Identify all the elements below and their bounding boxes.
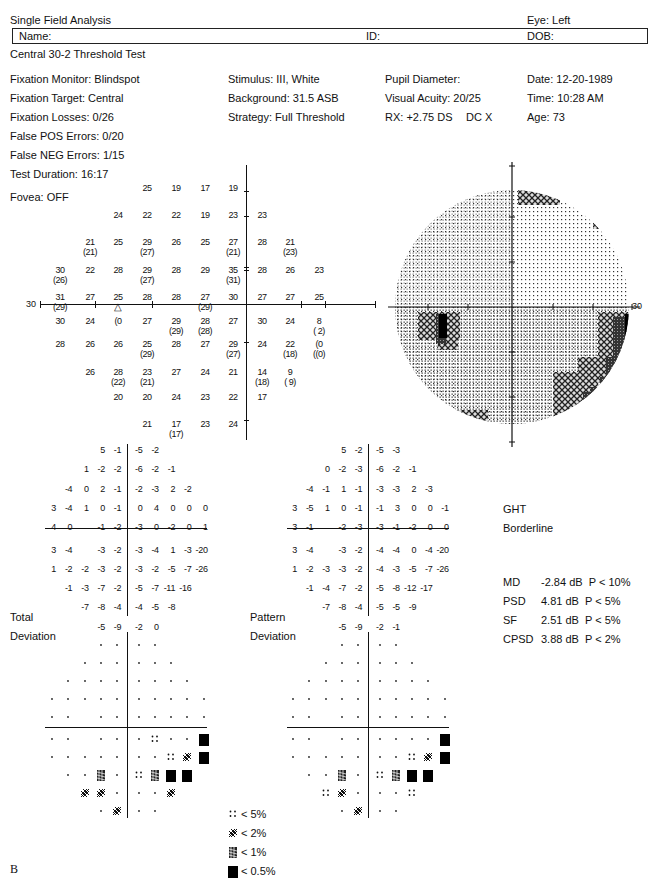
threshold-value: 24 <box>76 316 104 326</box>
threshold-value: 19 <box>191 210 219 220</box>
normal-dot-icon <box>304 694 314 706</box>
threshold-value: 19 <box>219 183 247 193</box>
normal-dot-icon <box>150 712 160 724</box>
normal-dot-icon <box>337 734 347 746</box>
p05-symbol-icon <box>199 734 209 748</box>
normal-dot-icon <box>321 694 331 706</box>
total-label: Total <box>10 611 33 623</box>
normal-dot-icon <box>182 694 192 706</box>
normal-dot-icon <box>63 770 73 782</box>
age: Age: 73 <box>527 111 565 123</box>
time: Time: 10:28 AM <box>527 92 604 104</box>
threshold-value: 35(31) <box>219 265 247 285</box>
p05-symbol-icon <box>407 770 417 784</box>
threshold-value: (0 <box>104 316 132 326</box>
legend-label: < 1% <box>241 846 266 858</box>
normal-dot-icon <box>134 734 144 746</box>
deviation-value: -1 <box>293 522 313 532</box>
normal-dot-icon <box>112 640 122 652</box>
threshold-value: 17 <box>248 392 276 402</box>
p5-symbol-icon <box>134 770 144 782</box>
normal-dot-icon <box>423 712 433 724</box>
legend-label: < 2% <box>241 827 266 839</box>
threshold-value: 25 <box>104 237 132 247</box>
normal-dot-icon <box>96 806 106 818</box>
normal-dot-icon <box>182 676 192 688</box>
deviation-value: -2 <box>101 464 121 474</box>
deviation-value: -3 <box>412 484 432 494</box>
normal-dot-icon <box>96 694 106 706</box>
normal-dot-icon <box>150 676 160 688</box>
legend-item: < 2% <box>228 827 266 839</box>
deviation-value: -3 <box>342 464 362 474</box>
normal-dot-icon <box>375 752 385 764</box>
threshold-value: 28 <box>162 339 190 349</box>
figure-panel-label: B <box>10 862 18 877</box>
dc: DC X <box>466 111 492 123</box>
threshold-value: 21(21) <box>76 237 104 257</box>
threshold-value: 19 <box>162 183 190 193</box>
deviation-value: -2 <box>342 545 362 555</box>
p1-symbol-icon <box>391 770 401 783</box>
normal-dot-icon <box>63 676 73 688</box>
p2-symbol-icon <box>166 788 176 800</box>
test-duration: Test Duration: 16:17 <box>10 168 108 180</box>
threshold-value: 24 <box>162 392 190 402</box>
normal-dot-icon <box>63 694 73 706</box>
name-label: Name: <box>19 30 51 42</box>
deviation-value: -3 <box>380 445 400 455</box>
normal-dot-icon <box>391 676 401 688</box>
p2-symbol-icon <box>337 788 347 800</box>
normal-dot-icon <box>375 734 385 746</box>
normal-dot-icon <box>134 806 144 818</box>
normal-dot-icon <box>440 694 450 706</box>
normal-dot-icon <box>304 752 314 764</box>
normal-dot-icon <box>150 806 160 818</box>
p5-symbol-icon <box>407 788 417 800</box>
threshold-value: 28 <box>133 292 161 302</box>
threshold-value: 30 <box>248 316 276 326</box>
p05-symbol-icon <box>423 770 433 784</box>
normal-dot-icon <box>337 658 347 670</box>
fovea: Fovea: OFF <box>10 191 69 203</box>
threshold-value: 23 <box>191 392 219 402</box>
normal-dot-icon <box>112 676 122 688</box>
normal-dot-icon <box>407 676 417 688</box>
p05-symbol-icon <box>199 752 209 766</box>
normal-dot-icon <box>80 770 90 782</box>
legend-item: < 0.5% <box>228 865 276 877</box>
threshold-value: 30 <box>46 316 74 326</box>
deviation-value: -2 <box>171 484 191 494</box>
normal-dot-icon <box>337 806 347 818</box>
normal-dot-icon <box>96 712 106 724</box>
threshold-value: 26 <box>162 237 190 247</box>
deviation-value: -2 <box>342 583 362 593</box>
normal-dot-icon <box>199 712 209 724</box>
deviation-value: 1 <box>188 522 208 532</box>
date: Date: 12-20-1989 <box>527 73 613 85</box>
normal-dot-icon <box>47 734 57 746</box>
deviation-value: -1 <box>380 622 400 632</box>
deviation-value: -1 <box>396 464 416 474</box>
pupil-diameter: Pupil Diameter: <box>385 73 460 85</box>
normal-dot-icon <box>321 770 331 782</box>
normal-dot-icon <box>47 694 57 706</box>
normal-dot-icon <box>407 712 417 724</box>
normal-dot-icon <box>375 806 385 818</box>
eye-label: Eye: Left <box>527 14 570 26</box>
threshold-value: 29(27) <box>133 237 161 257</box>
stimulus: Stimulus: III, White <box>228 73 320 85</box>
threshold-value: 27 <box>76 292 104 302</box>
threshold-value: 26 <box>276 265 304 275</box>
false-pos-errors: False POS Errors: 0/20 <box>10 130 124 142</box>
normal-dot-icon <box>375 694 385 706</box>
p5-symbol-icon <box>321 788 331 800</box>
p05-symbol-icon <box>182 770 192 784</box>
normal-dot-icon <box>423 734 433 746</box>
normal-dot-icon <box>353 658 363 670</box>
threshold-value: (0((0) <box>305 339 333 359</box>
threshold-value: 25△ <box>104 292 132 312</box>
normal-dot-icon <box>353 788 363 800</box>
normal-dot-icon <box>182 712 192 724</box>
normal-dot-icon <box>150 658 160 670</box>
